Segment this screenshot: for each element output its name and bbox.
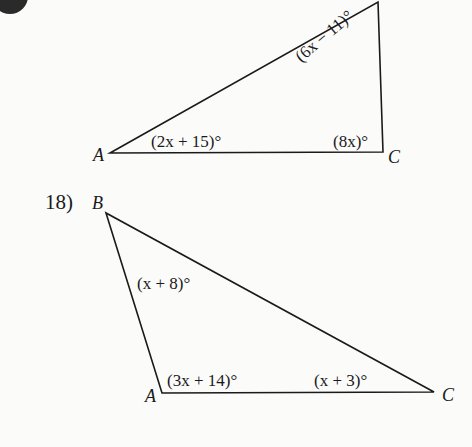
angle-c-label-18: (x + 3)° — [314, 372, 367, 389]
triangle-18-shape — [106, 213, 434, 393]
problem-18-number: 18) — [45, 192, 73, 213]
vertex-c-label-18: C — [442, 386, 454, 404]
vertex-a-label-17: A — [93, 146, 104, 164]
angle-c-label-17: (8x)° — [333, 133, 368, 150]
angle-b-label-18: (x + 8)° — [137, 275, 190, 292]
vertex-a-label-18: A — [145, 387, 156, 405]
worksheet-page: A C (2x + 15)° (8x)° (6x − 11)° 18) B A … — [0, 0, 472, 447]
vertex-b-label-18: B — [92, 194, 103, 212]
angle-a-label-18: (3x + 14)° — [167, 372, 237, 389]
vertex-c-label-17: C — [388, 148, 400, 166]
angle-a-label-17: (2x + 15)° — [151, 133, 221, 150]
